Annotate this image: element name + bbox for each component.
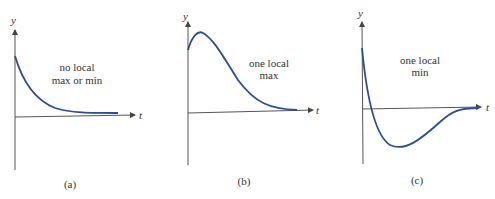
- panel-a: y t no local max or min (a): [10, 14, 143, 191]
- curve: [188, 32, 297, 110]
- annotation-line1: no local: [59, 61, 94, 73]
- y-axis: [362, 22, 363, 164]
- y-label: y: [10, 14, 16, 26]
- panel-b: y t one local max (b): [182, 10, 320, 188]
- caption: (a): [64, 178, 77, 191]
- annotation-line1: one local: [249, 57, 289, 69]
- t-label: t: [139, 109, 143, 121]
- caption: (c): [411, 174, 424, 187]
- annotation-line2: min: [411, 66, 429, 78]
- t-label: t: [486, 101, 490, 113]
- annotation-line2: max: [260, 69, 279, 81]
- t-axis: [15, 115, 135, 117]
- annotation-line1: one local: [400, 54, 440, 66]
- panel-c: y t one local min (c): [357, 7, 490, 187]
- annotation-line2: max or min: [52, 74, 103, 86]
- figure: y t no local max or min (a) y t one loca…: [0, 0, 495, 199]
- t-label: t: [316, 104, 320, 116]
- y-label: y: [182, 10, 188, 22]
- y-label: y: [357, 7, 363, 19]
- caption: (b): [238, 175, 251, 188]
